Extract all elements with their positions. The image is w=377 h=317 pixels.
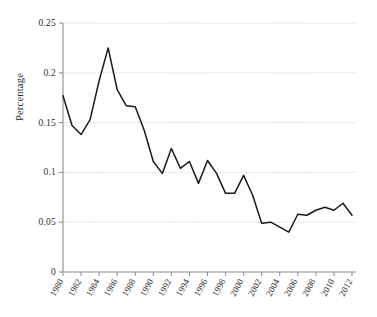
- axis-lines: [63, 23, 356, 272]
- plot-area: [0, 0, 377, 317]
- data-series-line: [63, 48, 352, 232]
- axis-tick-marks: [59, 23, 352, 276]
- chart-figure: Percentage 00.050.10.150.20.25 198019821…: [0, 0, 377, 317]
- gridlines: [64, 23, 356, 222]
